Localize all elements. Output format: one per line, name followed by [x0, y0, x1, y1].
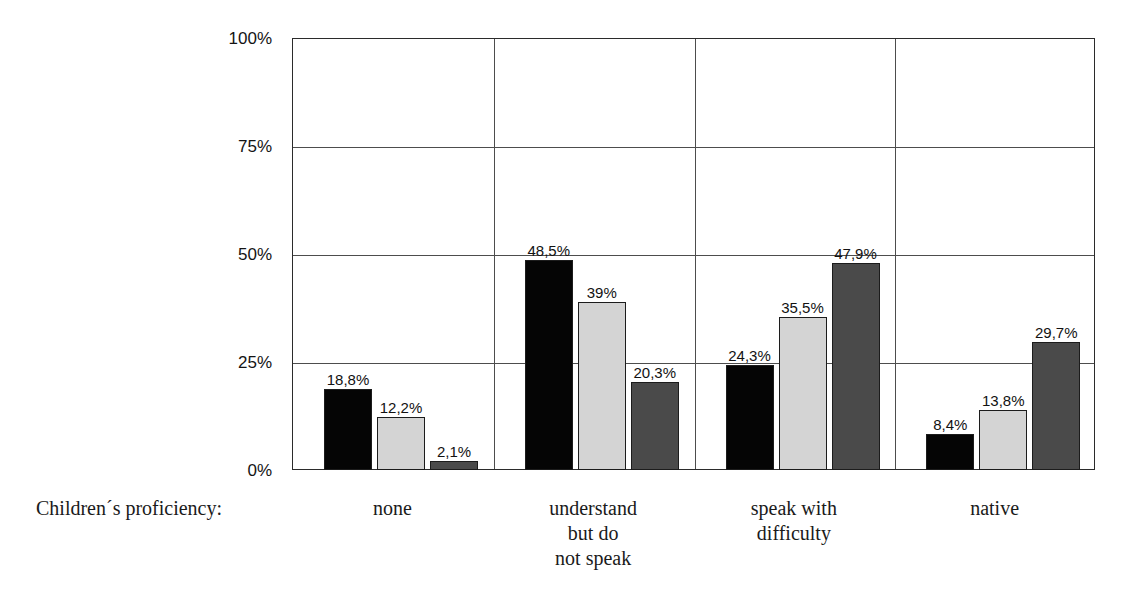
bar: 2,1%: [430, 461, 478, 470]
bar: 12,2%: [377, 417, 425, 470]
bar-group: 8,4%13,8%29,7%: [894, 38, 1095, 470]
bar: 47,9%: [832, 263, 880, 470]
bar: 39%: [578, 302, 626, 470]
bar-value-label: 29,7%: [1035, 325, 1078, 340]
x-axis-label-line: native: [894, 496, 1095, 521]
y-axis-tick-label: 0%: [247, 462, 272, 479]
bar-group: 48,5%39%20,3%: [493, 38, 694, 470]
bar-value-label: 13,8%: [982, 393, 1025, 408]
y-axis-tick-label: 25%: [238, 354, 272, 371]
bar: 18,8%: [324, 389, 372, 470]
bar-value-label: 12,2%: [380, 400, 423, 415]
x-axis-category-label: native: [894, 496, 1095, 521]
x-axis-label-line: difficulty: [694, 521, 895, 546]
x-axis-category-label: understandbut donot speak: [493, 496, 694, 571]
bar-value-label: 8,4%: [933, 417, 967, 432]
x-axis-label-line: none: [292, 496, 493, 521]
x-axis-label-line: speak with: [694, 496, 895, 521]
bar: 24,3%: [726, 365, 774, 470]
bar-group: 24,3%35,5%47,9%: [694, 38, 895, 470]
bar-value-label: 48,5%: [527, 243, 570, 258]
x-axis-category-label: speak withdifficulty: [694, 496, 895, 546]
bar-value-label: 2,1%: [437, 444, 471, 459]
x-axis-category-label: none: [292, 496, 493, 521]
bar: 20,3%: [631, 382, 679, 470]
bar-value-label: 39%: [587, 285, 617, 300]
bar: 13,8%: [979, 410, 1027, 470]
x-axis-label-line: understand: [493, 496, 694, 521]
bar: 48,5%: [525, 260, 573, 470]
bar: 29,7%: [1032, 342, 1080, 470]
bar: 8,4%: [926, 434, 974, 470]
bars-layer: 18,8%12,2%2,1%48,5%39%20,3%24,3%35,5%47,…: [292, 38, 1095, 470]
x-axis-label-line: not speak: [493, 546, 694, 571]
bar-value-label: 47,9%: [834, 246, 877, 261]
bar-value-label: 18,8%: [327, 372, 370, 387]
bar-chart: 0%25%50%75%100% 18,8%12,2%2,1%48,5%39%20…: [0, 0, 1137, 606]
y-axis-tick-label: 50%: [238, 246, 272, 263]
y-axis-tick-label: 100%: [229, 30, 272, 47]
x-axis-label-line: but do: [493, 521, 694, 546]
x-axis-caption: Children´s proficiency:: [36, 496, 222, 520]
y-axis-tick-label: 75%: [238, 138, 272, 155]
bar-group: 18,8%12,2%2,1%: [292, 38, 493, 470]
bar-value-label: 24,3%: [728, 348, 771, 363]
bar-value-label: 20,3%: [633, 365, 676, 380]
bar: 35,5%: [779, 317, 827, 470]
bar-value-label: 35,5%: [781, 300, 824, 315]
